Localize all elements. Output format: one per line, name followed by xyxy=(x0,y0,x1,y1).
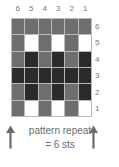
chart-cell xyxy=(52,101,64,116)
chart-cell xyxy=(25,19,37,34)
chart-cell xyxy=(39,101,51,116)
chart-cell xyxy=(52,68,64,83)
chart-row-label: 6 xyxy=(95,18,111,35)
chart-row-label: 1 xyxy=(95,101,111,118)
chart-cell xyxy=(39,19,51,34)
chart-cell xyxy=(12,35,24,50)
chart-cell xyxy=(65,84,77,99)
chart-cell xyxy=(65,68,77,83)
chart-cell xyxy=(39,84,51,99)
chart-cell xyxy=(52,19,64,34)
chart-cell xyxy=(52,84,64,99)
chart-cell xyxy=(12,101,24,116)
chart-row-label: 2 xyxy=(95,84,111,101)
chart-cell xyxy=(79,84,91,99)
chart-row-label: 5 xyxy=(95,35,111,52)
up-arrow-icon xyxy=(5,125,16,149)
chart-column-labels: 654321 xyxy=(11,2,92,15)
chart-cell xyxy=(79,68,91,83)
chart-column-label: 4 xyxy=(38,2,52,15)
chart-cell xyxy=(65,52,77,67)
chart-cell xyxy=(12,19,24,34)
chart-cell xyxy=(25,52,37,67)
chart-cell xyxy=(79,101,91,116)
chart-cell xyxy=(39,35,51,50)
chart-cell xyxy=(12,84,24,99)
chart-cell xyxy=(25,35,37,50)
chart-cell xyxy=(25,68,37,83)
pattern-repeat-caption: pattern repeat = 6 sts xyxy=(0,124,119,164)
chart-cell xyxy=(12,52,24,67)
chart-column-label: 5 xyxy=(25,2,39,15)
chart-cell xyxy=(79,19,91,34)
chart-cell xyxy=(25,84,37,99)
chart-cell xyxy=(65,101,77,116)
chart-cell xyxy=(39,68,51,83)
chart-cell xyxy=(39,52,51,67)
chart-cell xyxy=(79,52,91,67)
chart-column-label: 3 xyxy=(52,2,66,15)
chart-cell xyxy=(25,101,37,116)
chart-cell xyxy=(12,68,24,83)
chart-row-label: 3 xyxy=(95,68,111,85)
chart-cell xyxy=(65,19,77,34)
chart-cell xyxy=(79,35,91,50)
chart-row-label: 4 xyxy=(95,51,111,68)
chart-column-label: 2 xyxy=(65,2,79,15)
up-arrow-icon xyxy=(88,125,99,149)
chart-cell xyxy=(52,52,64,67)
chart-column-label: 6 xyxy=(11,2,25,15)
pattern-chart-grid xyxy=(11,18,92,117)
chart-column-label: 1 xyxy=(79,2,93,15)
chart-cell xyxy=(52,35,64,50)
chart-cell xyxy=(65,35,77,50)
chart-row-labels: 654321 xyxy=(95,18,111,117)
